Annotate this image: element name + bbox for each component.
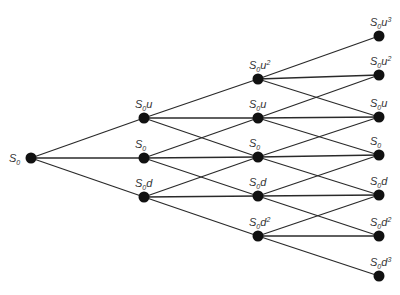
tree-edge bbox=[144, 196, 258, 197]
node-label: S0d2 bbox=[249, 216, 270, 230]
tree-node bbox=[253, 231, 264, 242]
tree-node bbox=[374, 112, 385, 123]
tree-node bbox=[139, 192, 150, 203]
tree-node bbox=[374, 31, 385, 42]
node-label: S0 bbox=[249, 137, 260, 151]
node-label: S0u2 bbox=[370, 55, 391, 69]
tree-edge bbox=[258, 155, 379, 157]
node-label: S0d2 bbox=[370, 216, 391, 230]
node-label: S0u2 bbox=[249, 59, 270, 73]
node-label: S0 bbox=[9, 152, 20, 166]
node-label: S0d bbox=[135, 177, 153, 191]
tree-node bbox=[139, 153, 150, 164]
node-label: S0d bbox=[370, 175, 388, 189]
tree-edge bbox=[31, 158, 144, 197]
trinomial-tree-diagram: S0S0uS0S0dS0u2S0uS0S0dS0d2S0u3S0u2S0uS0S… bbox=[0, 0, 400, 295]
node-label: S0u3 bbox=[370, 16, 391, 30]
tree-edge bbox=[31, 118, 144, 158]
tree-node bbox=[253, 152, 264, 163]
tree-node bbox=[253, 74, 264, 85]
tree-edge bbox=[144, 197, 258, 236]
node-label: S0d bbox=[249, 176, 267, 190]
node-label: S0u bbox=[135, 98, 152, 112]
tree-edge bbox=[144, 157, 258, 197]
tree-node bbox=[374, 190, 385, 201]
tree-edge bbox=[144, 157, 258, 158]
tree-edge bbox=[258, 117, 379, 118]
tree-node bbox=[374, 231, 385, 242]
tree-node bbox=[139, 113, 150, 124]
tree-edge bbox=[258, 75, 379, 79]
tree-node bbox=[374, 70, 385, 81]
tree-node bbox=[374, 150, 385, 161]
tree-edge bbox=[258, 195, 379, 196]
tree-node bbox=[253, 191, 264, 202]
node-label: S0u bbox=[370, 97, 387, 111]
tree-node bbox=[374, 271, 385, 282]
tree-node bbox=[253, 113, 264, 124]
node-label: S0 bbox=[135, 138, 146, 152]
node-label: S0 bbox=[370, 135, 381, 149]
tree-labels: S0S0uS0S0dS0u2S0uS0S0dS0d2S0u3S0u2S0uS0S… bbox=[9, 16, 391, 270]
node-label: S0u bbox=[249, 98, 266, 112]
tree-edge bbox=[258, 236, 379, 276]
tree-edges bbox=[31, 36, 379, 276]
node-label: S0d3 bbox=[370, 256, 391, 270]
tree-edge bbox=[144, 79, 258, 118]
tree-edge bbox=[258, 36, 379, 79]
tree-node bbox=[26, 153, 37, 164]
